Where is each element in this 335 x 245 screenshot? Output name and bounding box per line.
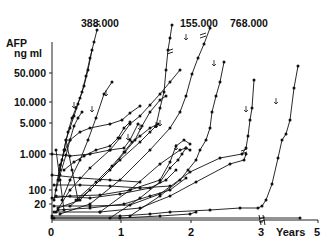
data-point bbox=[89, 189, 92, 192]
peak-label-768000: 768.000 bbox=[230, 18, 268, 29]
data-point bbox=[169, 211, 172, 214]
data-point bbox=[79, 184, 82, 187]
data-point bbox=[289, 119, 292, 122]
data-point bbox=[159, 93, 162, 96]
data-point bbox=[59, 174, 62, 177]
data-point bbox=[149, 213, 152, 216]
data-point bbox=[93, 41, 96, 44]
y-tick-label-1000: 1.000 bbox=[2, 149, 46, 160]
data-point bbox=[223, 61, 226, 64]
data-point bbox=[71, 117, 74, 120]
data-point bbox=[169, 127, 172, 130]
data-point bbox=[51, 153, 54, 156]
data-point bbox=[91, 49, 94, 52]
data-point bbox=[99, 194, 102, 197]
data-point bbox=[64, 149, 67, 152]
data-point bbox=[243, 159, 246, 162]
data-point bbox=[83, 155, 86, 158]
data-point bbox=[139, 197, 142, 200]
data-point bbox=[95, 181, 98, 184]
data-point bbox=[293, 87, 296, 90]
data-point bbox=[87, 139, 90, 142]
data-point bbox=[69, 179, 72, 182]
data-point bbox=[63, 209, 66, 212]
data-point bbox=[59, 169, 62, 172]
data-point bbox=[69, 189, 72, 192]
data-point bbox=[271, 183, 274, 186]
data-point bbox=[175, 169, 178, 172]
data-point bbox=[89, 207, 92, 210]
y-tick-label-50000: 50.000 bbox=[2, 68, 46, 79]
data-point bbox=[139, 105, 142, 108]
data-point bbox=[69, 155, 72, 158]
data-point bbox=[139, 115, 142, 118]
data-point bbox=[53, 205, 56, 208]
data-point bbox=[261, 205, 264, 208]
data-point bbox=[185, 95, 188, 98]
data-point bbox=[61, 199, 64, 202]
data-point bbox=[99, 211, 102, 214]
data-point bbox=[179, 179, 182, 182]
data-point bbox=[73, 161, 76, 164]
data-point bbox=[129, 112, 132, 115]
data-point bbox=[191, 73, 194, 76]
data-point bbox=[169, 185, 172, 188]
data-point bbox=[187, 169, 190, 172]
data-point bbox=[299, 217, 302, 220]
data-point bbox=[189, 143, 192, 146]
data-point bbox=[165, 69, 168, 72]
data-point bbox=[51, 197, 54, 200]
data-point bbox=[53, 211, 56, 214]
data-point bbox=[169, 189, 172, 192]
data-point bbox=[179, 111, 182, 114]
data-point bbox=[149, 187, 152, 190]
data-point bbox=[89, 167, 92, 170]
data-point bbox=[69, 139, 72, 142]
data-point bbox=[139, 141, 142, 144]
data-point bbox=[159, 99, 162, 102]
data-point bbox=[109, 145, 112, 148]
data-point bbox=[53, 184, 56, 187]
y-tick-label-20: 20 bbox=[2, 199, 46, 210]
data-point bbox=[99, 179, 102, 182]
data-point bbox=[87, 69, 90, 72]
data-point bbox=[79, 131, 82, 134]
data-point bbox=[209, 209, 212, 212]
data-point bbox=[73, 125, 76, 128]
data-point bbox=[179, 69, 182, 72]
data-point bbox=[109, 169, 112, 172]
data-point bbox=[165, 95, 168, 98]
data-point bbox=[81, 111, 84, 114]
data-point bbox=[169, 195, 172, 198]
data-point bbox=[71, 169, 74, 172]
data-point bbox=[281, 139, 284, 142]
data-point bbox=[51, 217, 54, 220]
data-point bbox=[129, 215, 132, 218]
y-tick-label-10000: 10.000 bbox=[2, 97, 46, 108]
data-point bbox=[85, 75, 88, 78]
data-point bbox=[183, 139, 186, 142]
data-point bbox=[181, 153, 184, 156]
data-point bbox=[83, 85, 86, 88]
data-point bbox=[79, 177, 82, 180]
data-point bbox=[89, 57, 92, 60]
data-point bbox=[195, 159, 198, 162]
data-point bbox=[171, 24, 174, 27]
data-point bbox=[109, 217, 112, 220]
data-point bbox=[149, 127, 152, 130]
data-point bbox=[79, 159, 82, 162]
arrow-markers bbox=[72, 34, 278, 150]
data-point bbox=[61, 159, 64, 162]
data-point bbox=[189, 149, 192, 152]
data-point bbox=[219, 157, 222, 160]
data-point bbox=[51, 174, 54, 177]
data-point bbox=[69, 205, 72, 208]
x-tick-label-5: 5 bbox=[314, 227, 320, 238]
data-point bbox=[67, 131, 70, 134]
data-point bbox=[149, 111, 152, 114]
data-point bbox=[159, 215, 162, 218]
data-point bbox=[95, 117, 98, 120]
data-point bbox=[89, 153, 92, 156]
x-tick-label-3: 3 bbox=[258, 227, 264, 238]
data-point bbox=[123, 127, 126, 130]
